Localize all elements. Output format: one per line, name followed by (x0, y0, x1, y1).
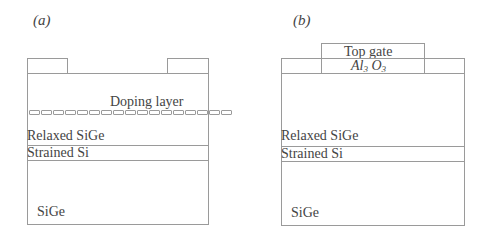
doping-layer-label: Doping layer (110, 95, 183, 109)
doping-segment (53, 110, 64, 115)
doping-segment (65, 110, 76, 115)
doping-segment (137, 110, 148, 115)
substrate-sige-label-a: SiGe (37, 205, 65, 219)
doping-segment (197, 110, 208, 115)
left-contact (27, 58, 68, 74)
right-contact (167, 58, 209, 74)
panel-a-label: (a) (33, 12, 51, 29)
doping-layer (29, 110, 232, 115)
relaxed-sige-label-b: Relaxed SiGe (281, 129, 358, 143)
doping-segment (185, 110, 196, 115)
doping-segment (149, 110, 160, 115)
doping-segment (77, 110, 88, 115)
panel-b-label: (b) (293, 12, 311, 29)
top-gate-label: Top gate (344, 45, 392, 59)
doping-segment (161, 110, 172, 115)
doping-segment (209, 110, 220, 115)
doping-segment (41, 110, 52, 115)
substrate-sige-label-b: SiGe (291, 206, 319, 220)
doping-segment (113, 110, 124, 115)
doping-segment (125, 110, 136, 115)
doping-segment (89, 110, 100, 115)
doping-segment (29, 110, 40, 115)
strained-si-label-a: Strained Si (27, 146, 89, 160)
strained-substrate-boundary-b (281, 161, 465, 162)
relaxed-sige-label-a: Relaxed SiGe (27, 129, 104, 143)
oxide-bottom-line (281, 73, 465, 74)
strained-substrate-boundary-a (27, 160, 209, 161)
doping-segment (221, 110, 232, 115)
doping-segment (173, 110, 184, 115)
strained-si-label-b: Strained Si (281, 147, 343, 161)
doping-segment (101, 110, 112, 115)
